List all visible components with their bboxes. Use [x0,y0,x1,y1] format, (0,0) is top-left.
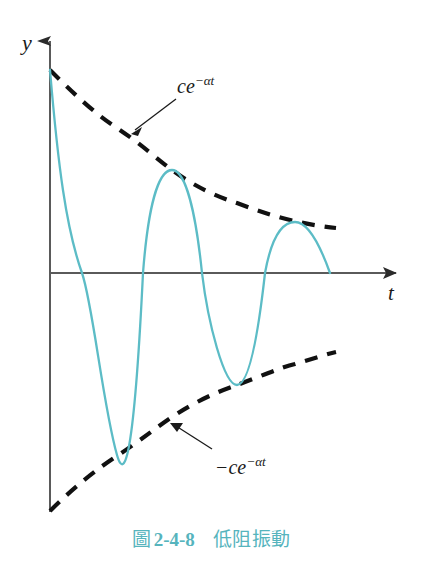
y-axis-label: y [22,32,32,54]
upper-envelope-base: ce [177,75,195,97]
figure-caption: 圖2-4-8低阻振動 [0,524,423,551]
t-axis-label: t [388,283,394,304]
lower-label-leader [170,423,212,449]
lower-envelope-label: −ce−αt [215,455,266,477]
caption-title: 低阻振動 [213,529,291,550]
figure-container: y t ce−αt −ce−αt 圖2-4-8低阻振動 [0,0,423,569]
caption-number: 2-4-8 [154,529,195,550]
upper-envelope-exponent: −αt [195,73,215,88]
lower-envelope-base: −ce [215,456,246,478]
lower-envelope-curve [50,352,336,511]
lower-envelope-exponent: −αt [246,454,266,469]
caption-prefix: 圖 [132,529,152,550]
upper-label-leader [131,99,176,136]
upper-envelope-label: ce−αt [177,74,214,96]
damped-oscillation-curve [50,70,330,464]
